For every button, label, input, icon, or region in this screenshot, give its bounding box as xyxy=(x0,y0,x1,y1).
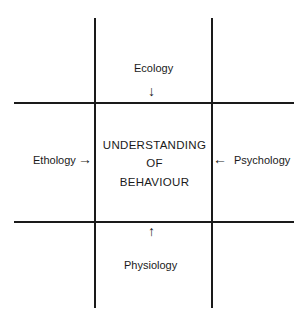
physiology-label: Physiology xyxy=(124,259,177,271)
center-line-1: UNDERSTANDING xyxy=(97,139,212,151)
center-line-2: OF xyxy=(97,157,212,169)
arrow-up-icon: ↑ xyxy=(148,224,155,238)
center-line-3: BEHAVIOUR xyxy=(97,176,212,188)
left-vertical-line xyxy=(94,18,96,308)
psychology-label: Psychology xyxy=(234,154,290,166)
ethology-label: Ethology xyxy=(33,154,76,166)
arrow-right-icon: → xyxy=(78,152,92,166)
arrow-left-icon: ← xyxy=(213,152,227,166)
ecology-label: Ecology xyxy=(134,62,173,74)
arrow-down-icon: ↓ xyxy=(148,84,155,98)
top-horizontal-line xyxy=(14,102,294,104)
